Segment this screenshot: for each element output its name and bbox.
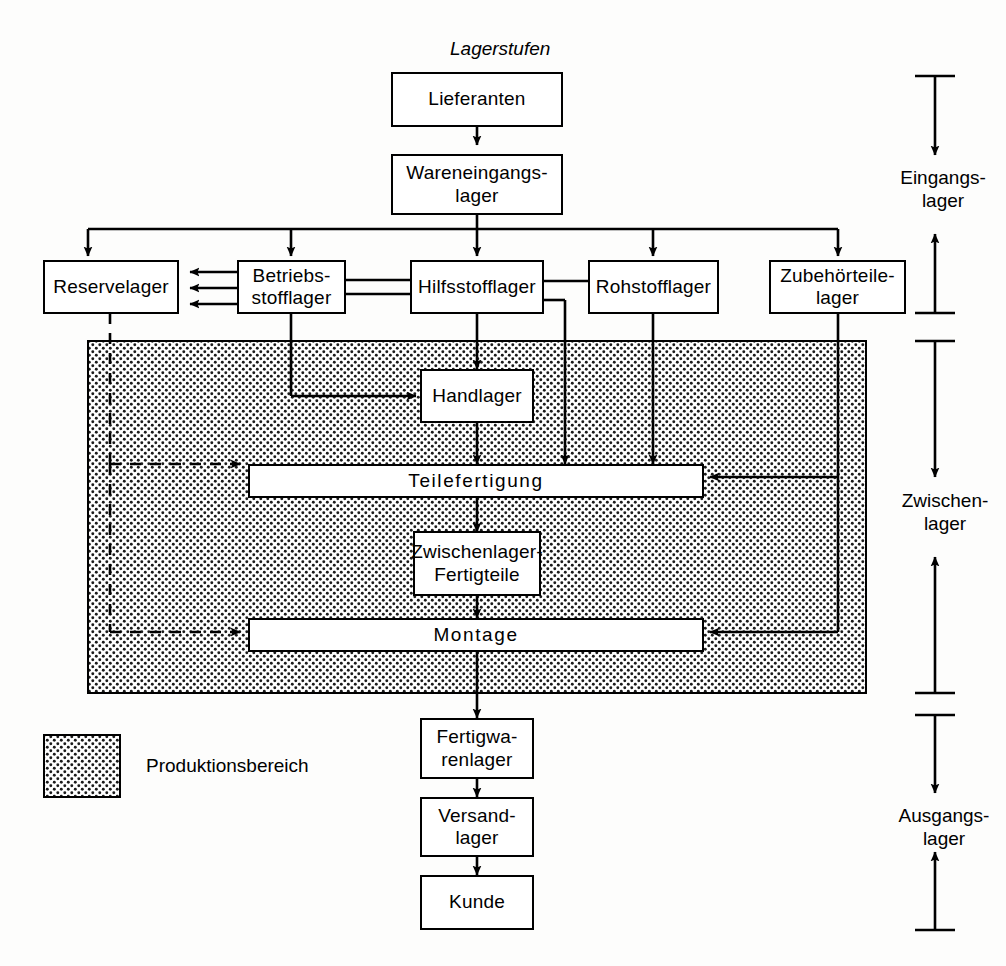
node-montage[interactable]: Montage <box>248 618 704 652</box>
node-betriebsstofflager[interactable]: Betriebs- stofflager <box>237 260 346 314</box>
node-hilfsstofflager[interactable]: Hilfsstofflager <box>410 260 544 314</box>
node-reservelager[interactable]: Reservelager <box>43 260 179 314</box>
stage-label-eingangslager: Eingangs- lager <box>888 167 998 213</box>
node-zwischenlager-fertigteile[interactable]: Zwischenlager- Fertigteile <box>413 531 541 596</box>
node-teilefertigung[interactable]: Teilefertigung <box>248 464 704 498</box>
node-fertigwarenlager[interactable]: Fertigwa- renlager <box>420 718 534 779</box>
legend-label: Produktionsbereich <box>146 755 309 777</box>
diagram-canvas: Lagerstufen Lieferanten Wareneingangs- l… <box>0 0 1006 966</box>
diagram-caption: Lagerstufen <box>450 38 550 60</box>
node-zubehoerteilelager[interactable]: Zubehörteile- lager <box>769 260 906 314</box>
legend-swatch-fill <box>44 735 120 797</box>
node-versandlager[interactable]: Versand- lager <box>420 797 534 857</box>
node-rohstofflager[interactable]: Rohstofflager <box>588 260 719 314</box>
node-wareneingangslager[interactable]: Wareneingangs- lager <box>391 154 563 215</box>
stage-label-ausgangslager: Ausgangs- lager <box>888 805 1000 851</box>
node-handlager[interactable]: Handlager <box>420 369 534 423</box>
stage-label-zwischenlager: Zwischen- lager <box>888 490 1002 536</box>
node-kunde[interactable]: Kunde <box>420 875 534 930</box>
node-lieferanten[interactable]: Lieferanten <box>391 72 563 127</box>
